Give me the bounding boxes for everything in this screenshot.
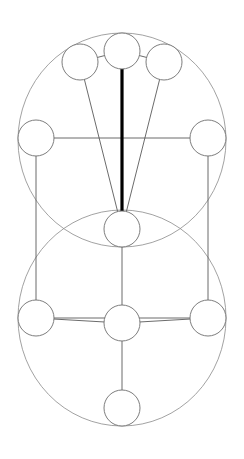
middle-left-node[interactable] [18,120,54,156]
lower-center-node[interactable] [104,305,140,341]
tree-of-life-diagram [0,0,244,459]
bottom-node[interactable] [104,390,140,426]
lower-left-node[interactable] [18,300,54,336]
path-top-left-to-center[interactable] [80,62,122,229]
tree-of-life-canvas [0,0,244,459]
center-node[interactable] [104,211,140,247]
lower-right-node[interactable] [190,300,226,336]
top-right-node[interactable] [146,44,182,80]
middle-right-node[interactable] [190,120,226,156]
path-top-right-to-center[interactable] [122,62,164,229]
top-left-node[interactable] [62,44,98,80]
top-center-node[interactable] [104,33,140,69]
